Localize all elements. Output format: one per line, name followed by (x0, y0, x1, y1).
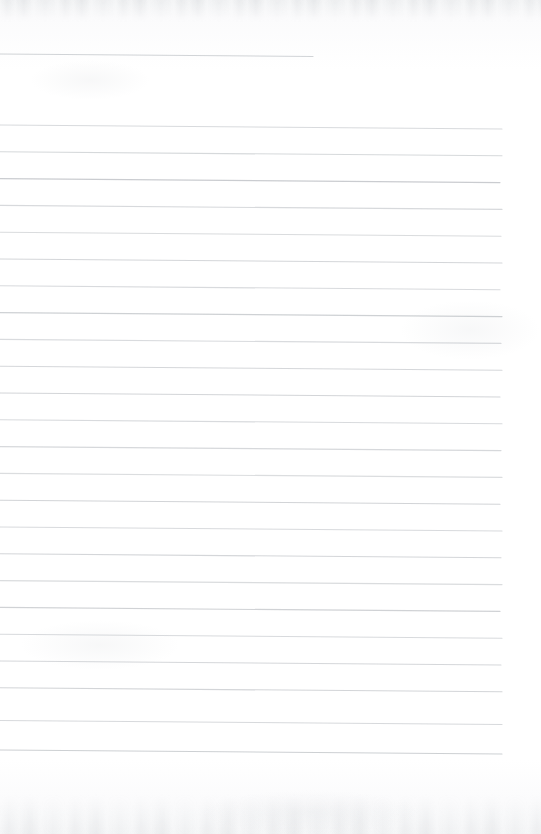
rule-24 (0, 750, 502, 754)
rule-14 (0, 473, 502, 477)
rule-16 (0, 527, 502, 531)
rule-group (0, 54, 502, 754)
rule-18 (0, 581, 502, 585)
rule-06 (0, 259, 502, 263)
rule-01 (0, 125, 502, 129)
rule-05 (0, 232, 501, 236)
rule-15 (0, 500, 500, 504)
rule-21 (0, 661, 501, 665)
rule-10 (0, 366, 502, 370)
rule-12 (0, 420, 502, 424)
rule-07 (0, 286, 500, 290)
rule-09 (0, 339, 501, 343)
rule-20 (0, 634, 502, 638)
rule-22 (0, 688, 502, 692)
ruled-lines-layer (0, 0, 541, 834)
rule-08 (0, 313, 502, 317)
rule-17 (0, 554, 501, 558)
rule-19 (0, 607, 500, 611)
rule-23 (0, 721, 502, 725)
rule-02 (0, 152, 502, 156)
rule-header (0, 54, 313, 56)
rule-11 (0, 393, 500, 397)
rule-04 (0, 205, 502, 209)
scanned-page (0, 0, 541, 834)
rule-13 (0, 447, 501, 451)
rule-03 (0, 179, 500, 183)
